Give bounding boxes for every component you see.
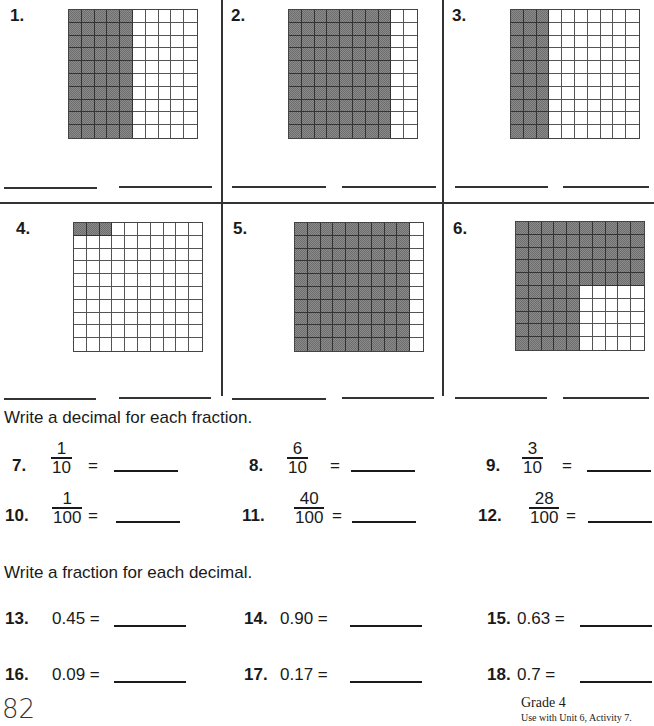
grid-cell: [146, 74, 159, 87]
answer-blank-9[interactable]: [587, 470, 651, 472]
answer-blank-14[interactable]: [350, 625, 422, 627]
grid-cell-shaded: [82, 36, 95, 49]
grid-cell: [133, 23, 146, 36]
answer-line-4b[interactable]: [119, 397, 211, 399]
grid-cell-shaded: [631, 273, 644, 286]
grid-cell: [588, 125, 601, 138]
grid-cell: [410, 325, 423, 338]
grid-cell-shaded: [379, 112, 392, 125]
grid-cell-shaded: [567, 312, 580, 325]
grid-cell: [112, 274, 125, 287]
grid-cell-shaded: [366, 23, 379, 36]
grid-cell: [159, 36, 172, 49]
grid-cell-shaded: [524, 74, 537, 87]
grid-cell-shaded: [327, 87, 340, 100]
grid-cell-shaded: [618, 222, 631, 235]
grid-cell-shaded: [542, 273, 555, 286]
answer-blank-18[interactable]: [580, 681, 652, 683]
answer-line-1a[interactable]: [4, 187, 97, 189]
grid-cell-shaded: [366, 74, 379, 87]
grid-cell-shaded: [379, 48, 392, 61]
grid-cell-shaded: [346, 261, 359, 274]
grid-cell: [164, 274, 177, 287]
grid-cell: [100, 249, 113, 262]
grid-cell-shaded: [516, 260, 529, 273]
grid-cell: [549, 74, 562, 87]
grid-cell-shaded: [606, 235, 619, 248]
grid-cell: [171, 61, 184, 74]
grid-cell: [74, 236, 87, 249]
problem-number-6: 6.: [453, 219, 467, 239]
grid-cell-shaded: [289, 74, 302, 87]
grid-cell: [159, 125, 172, 138]
answer-line-4a[interactable]: [4, 398, 96, 400]
grid-cell-shaded: [366, 36, 379, 49]
grid-cell-shaded: [289, 61, 302, 74]
grid-cell-shaded: [308, 249, 321, 262]
grid-cell: [133, 36, 146, 49]
grid-cell: [189, 249, 202, 262]
answer-line-5a[interactable]: [232, 398, 326, 400]
grid-cell-shaded: [618, 260, 631, 273]
grid-cell-shaded: [327, 112, 340, 125]
grid-cell-shaded: [340, 48, 353, 61]
grid-cell-shaded: [542, 222, 555, 235]
grid-cell: [138, 236, 151, 249]
grid-cell: [410, 313, 423, 326]
denominator: 10: [51, 459, 72, 476]
answer-line-2a[interactable]: [232, 186, 326, 188]
grid-cell: [176, 223, 189, 236]
answer-blank-7[interactable]: [114, 470, 178, 472]
answer-blank-12[interactable]: [588, 521, 652, 523]
grid-cell: [100, 274, 113, 287]
grid-cell-shaded: [82, 87, 95, 100]
row-divider: [0, 202, 654, 204]
grid-cell-shaded: [529, 286, 542, 299]
denominator: 10: [522, 459, 543, 476]
grid-cell: [74, 261, 87, 274]
grid-cell-shaded: [69, 125, 82, 138]
answer-line-1b[interactable]: [119, 186, 212, 188]
grid-cell-shaded: [295, 223, 308, 236]
answer-line-3a[interactable]: [455, 186, 548, 188]
grid-cell-shaded: [618, 273, 631, 286]
grid-cell: [601, 112, 614, 125]
answer-line-6a[interactable]: [455, 397, 547, 399]
grid-cell: [74, 325, 87, 338]
grid-cell: [404, 125, 417, 138]
answer-blank-11[interactable]: [352, 521, 416, 523]
grid-cell: [151, 313, 164, 326]
grid-cell-shaded: [120, 23, 133, 36]
answer-blank-13[interactable]: [114, 625, 186, 627]
answer-blank-17[interactable]: [350, 681, 422, 683]
answer-line-2b[interactable]: [342, 186, 436, 188]
answer-blank-8[interactable]: [351, 470, 415, 472]
answer-blank-16[interactable]: [114, 681, 186, 683]
grid-cell: [138, 274, 151, 287]
grid-cell-shaded: [308, 325, 321, 338]
grid-cell-shaded: [359, 287, 372, 300]
answer-line-5b[interactable]: [342, 397, 434, 399]
grid-cell: [189, 338, 202, 351]
grid-cell-shaded: [95, 36, 108, 49]
grid-cell: [159, 74, 172, 87]
grid-cell: [631, 299, 644, 312]
grid-cell-shaded: [593, 222, 606, 235]
grid-cell-shaded: [606, 248, 619, 261]
answer-line-3b[interactable]: [563, 186, 649, 188]
grid-cell: [151, 300, 164, 313]
answer-line-6b[interactable]: [563, 397, 649, 399]
grid-cell-shaded: [333, 236, 346, 249]
grid-cell: [164, 300, 177, 313]
grid-cell-shaded: [379, 100, 392, 113]
grid-cell: [138, 338, 151, 351]
grid-cell-shaded: [321, 223, 334, 236]
answer-blank-10[interactable]: [116, 521, 180, 523]
grid-cell: [601, 48, 614, 61]
grid-cell-shaded: [295, 325, 308, 338]
grid-cell: [575, 61, 588, 74]
grid-cell-shaded: [295, 287, 308, 300]
answer-blank-15[interactable]: [580, 625, 652, 627]
equals-sign: =: [562, 456, 572, 476]
grid-cell-shaded: [554, 260, 567, 273]
